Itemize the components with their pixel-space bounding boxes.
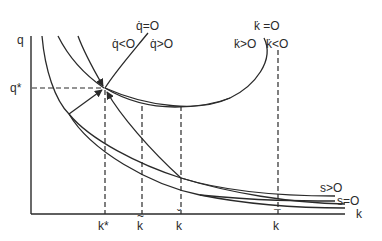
stable-arm-upper [78, 36, 103, 86]
q-dot-zero-label: q̇=O [136, 19, 159, 33]
k-bar-mark: ¯ [273, 208, 281, 222]
y-axis-label: q [17, 33, 24, 47]
k-dot-zero-label: k̇ =O [254, 19, 280, 33]
s-positive-label: s>O [320, 181, 342, 195]
x-axis-label: k [356, 207, 363, 221]
trajectory-second [69, 114, 345, 204]
k-check-mark: ˇ [177, 208, 181, 222]
s-positive-curve [181, 178, 335, 196]
q-dot-pos-label: q̇>O [150, 37, 173, 51]
phase-diagram: q q* k* k ~ k ˇ k ¯ k q̇=O q̇<O q̇>O k̇ … [0, 0, 382, 241]
k-tilde-mark: ~ [137, 209, 144, 223]
q-star-label: q* [10, 81, 22, 95]
s-zero-label: s=O [337, 194, 359, 208]
q-dot-neg-label: q̇<O [112, 37, 135, 51]
k-dot-neg-label: k̇<O [266, 37, 288, 51]
path-to-equilibrium [69, 90, 102, 114]
k-star-label: k* [98, 219, 109, 233]
k-dot-pos-label: k̇>O [234, 37, 256, 51]
